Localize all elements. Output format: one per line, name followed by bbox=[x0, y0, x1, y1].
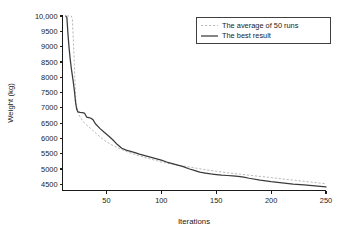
y-tick-label: 10,000 bbox=[35, 12, 58, 21]
y-axis-title: Weight (kg) bbox=[6, 83, 15, 123]
y-tick-label: 9500 bbox=[41, 27, 57, 36]
y-axis-ticks: 4500500055006000650070007500800085009000… bbox=[35, 12, 63, 189]
y-tick-label: 5000 bbox=[41, 165, 57, 174]
y-tick-label: 7500 bbox=[41, 88, 57, 97]
y-tick-label: 8500 bbox=[41, 58, 57, 67]
legend-label-best: The best result bbox=[222, 31, 271, 40]
y-tick-label: 6000 bbox=[41, 134, 57, 143]
y-tick-label: 9000 bbox=[41, 42, 57, 51]
x-axis-title: Iterations bbox=[178, 217, 210, 226]
y-tick-label: 8000 bbox=[41, 73, 57, 82]
x-tick-label: 200 bbox=[265, 196, 277, 205]
chart-legend: The average of 50 runs The best result bbox=[197, 18, 331, 44]
y-tick-label: 5500 bbox=[41, 149, 57, 158]
y-tick-label: 4500 bbox=[41, 180, 57, 189]
x-tick-label: 150 bbox=[210, 196, 222, 205]
y-tick-label: 7000 bbox=[41, 103, 57, 112]
x-tick-label: 100 bbox=[155, 196, 167, 205]
x-axis-ticks: 50100150200250 bbox=[102, 191, 332, 205]
x-tick-label: 250 bbox=[320, 196, 332, 205]
x-tick-label: 50 bbox=[102, 196, 110, 205]
chart-figure: 4500500055006000650070007500800085009000… bbox=[0, 0, 341, 231]
weight-vs-iterations-line-chart: 4500500055006000650070007500800085009000… bbox=[0, 0, 341, 231]
legend-label-average: The average of 50 runs bbox=[222, 21, 299, 30]
y-tick-label: 6500 bbox=[41, 119, 57, 128]
